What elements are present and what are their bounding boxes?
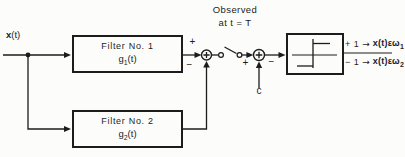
- observed-note-line2: at t = T: [196, 16, 274, 29]
- filter1-impulse-response: g1(t): [118, 53, 136, 68]
- sum1-minus-sign: −: [185, 60, 194, 70]
- decision1-signal-rest: (t): [378, 38, 388, 48]
- decision1-class: x(t)εω1: [373, 38, 404, 50]
- filter1-block: Filter No. 1 g1(t): [72, 35, 183, 73]
- sum2-plus-sign: +: [241, 58, 250, 68]
- sum-junction-1-icon: [202, 50, 212, 60]
- filter2-block: Filter No. 2 g2(t): [72, 110, 183, 148]
- filter2-output-line: [183, 61, 210, 129]
- right-arrow-icon: →: [362, 57, 370, 67]
- decision2-class: x(t)εω2: [373, 56, 404, 68]
- filter1-title: Filter No. 1: [101, 41, 153, 52]
- decision1-level: + 1: [345, 39, 359, 49]
- decision-row-2: − 1 → x(t)εω2: [345, 56, 404, 68]
- block-diagram: x(t) Observed at t = T Filter No. 1 g1(t…: [0, 0, 405, 157]
- threshold-block: [286, 33, 344, 75]
- filter1-gain-arg: (t): [128, 53, 137, 64]
- observed-note: Observed at t = T: [196, 3, 274, 29]
- decision2-level: − 1: [345, 57, 359, 67]
- sum2-minus-sign: −: [267, 57, 276, 67]
- decision2-signal-rest: (t): [378, 56, 388, 66]
- filter1-output-line: [183, 52, 202, 58]
- observed-note-line1: Observed: [196, 3, 274, 16]
- input-signal-rest: (t): [11, 29, 20, 40]
- sum1-plus-sign: +: [188, 37, 197, 47]
- decision2-class-sub: 2: [400, 61, 404, 68]
- input-signal-label: x(t): [6, 30, 20, 40]
- input-line: [3, 52, 71, 132]
- decision1-class-sub: 1: [400, 43, 404, 50]
- decision2-class-symbol: ω: [392, 56, 400, 66]
- filter2-gain-arg: (t): [128, 128, 137, 139]
- filter2-title: Filter No. 2: [101, 116, 153, 127]
- decision1-class-symbol: ω: [392, 38, 400, 48]
- sum-junction-2-icon: [254, 50, 265, 61]
- threshold-constant-label: c: [253, 86, 265, 96]
- right-arrow-icon: →: [362, 39, 370, 49]
- decision-row-1: + 1 → x(t)εω1: [345, 38, 404, 50]
- filter2-impulse-response: g2(t): [118, 128, 136, 143]
